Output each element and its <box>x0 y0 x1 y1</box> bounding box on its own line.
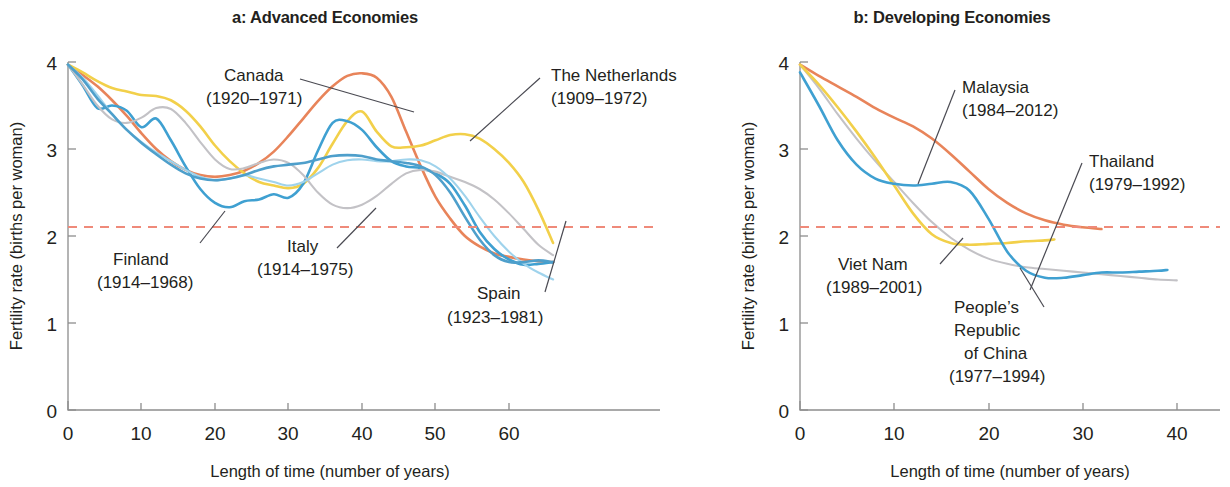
panel-a-ytick-1: 1 <box>46 314 57 335</box>
panel-a-xtick-60: 60 <box>498 423 519 444</box>
panel-b-y-axis-title: Fertility rate (births per woman) <box>739 122 757 350</box>
annotation-china-line2: Republic <box>954 321 1021 340</box>
annotation-finland: Finland (1914–1968) <box>97 250 193 292</box>
figure-root: a: Advanced Economies <box>0 0 1230 487</box>
annotation-finland-years: (1914–1968) <box>97 273 193 292</box>
panel-b-xtick-30: 30 <box>1072 423 1093 444</box>
annotation-viet-nam: Viet Nam (1989–2001) <box>826 255 922 297</box>
annotation-canada-years: (1920–1971) <box>206 89 302 108</box>
panel-b-xtick-0: 0 <box>795 423 806 444</box>
panel-a-ytick-2: 2 <box>46 227 57 248</box>
leader-netherlands <box>470 78 540 141</box>
panel-a-xtick-20: 20 <box>204 423 225 444</box>
panel-b-xtick-10: 10 <box>883 423 904 444</box>
annotation-netherlands: The Netherlands (1909–1972) <box>551 66 677 108</box>
panel-a-xtick-0: 0 <box>63 423 74 444</box>
series-line <box>800 65 1101 229</box>
panel-a-ytick-3: 3 <box>46 140 57 161</box>
panel-b-ytick-3: 3 <box>778 140 789 161</box>
annotation-spain-years: (1923–1981) <box>447 308 543 327</box>
annotation-viet-nam-years: (1989–2001) <box>826 278 922 297</box>
panel-a-y-ticks <box>68 62 76 410</box>
annotation-malaysia-years: (1984–2012) <box>962 101 1058 120</box>
annotation-viet-nam-name: Viet Nam <box>838 255 908 274</box>
annotation-china-line3: of China <box>964 344 1028 363</box>
annotation-netherlands-years: (1909–1972) <box>551 89 647 108</box>
annotation-thailand-years: (1979–1992) <box>1089 175 1185 194</box>
panel-a-y-axis-title: Fertility rate (births per woman) <box>7 122 25 350</box>
panel-b-x-ticks <box>800 401 1177 410</box>
panel-a-xtick-10: 10 <box>130 423 151 444</box>
leader-canada <box>300 79 414 112</box>
annotation-thailand: Thailand (1979–1992) <box>1089 152 1185 194</box>
panel-advanced-economies: a: Advanced Economies <box>0 0 690 487</box>
annotation-malaysia-name: Malaysia <box>962 78 1030 97</box>
annotation-spain: Spain (1923–1981) <box>447 284 543 327</box>
annotation-finland-name: Finland <box>113 250 169 269</box>
annotation-thailand-name: Thailand <box>1089 152 1154 171</box>
panel-b-ytick-0: 0 <box>778 401 789 422</box>
annotation-canada-name: Canada <box>224 66 284 85</box>
panel-b-xtick-40: 40 <box>1166 423 1187 444</box>
panel-a-x-axis-title: Length of time (number of years) <box>210 462 449 480</box>
panel-b-ytick-2: 2 <box>778 227 789 248</box>
annotation-canada: Canada (1920–1971) <box>206 66 302 108</box>
panel-a-xtick-50: 50 <box>424 423 445 444</box>
annotation-italy: Italy (1914–1975) <box>257 237 353 279</box>
annotation-netherlands-name: The Netherlands <box>551 66 677 85</box>
panel-b-x-axis-title: Length of time (number of years) <box>890 462 1129 480</box>
annotation-china: People’s Republic of China (1977–1994) <box>949 298 1045 386</box>
panel-a-xtick-30: 30 <box>277 423 298 444</box>
panel-a-ytick-0: 0 <box>46 401 57 422</box>
annotation-spain-name: Spain <box>477 284 520 303</box>
panel-b-y-ticks <box>800 62 808 410</box>
panel-b-svg: 4 3 2 1 0 0 10 20 30 40 Length of time (… <box>690 0 1230 487</box>
annotation-italy-name: Italy <box>287 237 319 256</box>
panel-a-x-ticks <box>68 401 509 410</box>
annotation-malaysia: Malaysia (1984–2012) <box>962 78 1058 120</box>
panel-b-xtick-20: 20 <box>978 423 999 444</box>
panel-a-xtick-40: 40 <box>351 423 372 444</box>
panel-a-ytick-4: 4 <box>46 53 57 74</box>
panel-b-ytick-4: 4 <box>778 53 789 74</box>
leader-malaysia <box>918 90 955 184</box>
annotation-china-line1: People’s <box>954 298 1019 317</box>
panel-a-svg: 4 3 2 1 0 0 10 20 30 40 50 60 Length of … <box>0 0 690 487</box>
annotation-italy-years: (1914–1975) <box>257 260 353 279</box>
panel-developing-economies: b: Developing Economies 4 3 2 1 <box>690 0 1230 487</box>
panel-b-ytick-1: 1 <box>778 314 789 335</box>
annotation-china-line4: (1977–1994) <box>949 367 1045 386</box>
